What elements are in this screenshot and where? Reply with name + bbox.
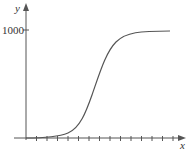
y-axis-label: y xyxy=(14,2,20,14)
y-axis: 1000 y xyxy=(2,2,29,140)
logistic-curve xyxy=(26,31,170,138)
chart: 1000 y x xyxy=(0,0,188,150)
y-axis-arrow-icon xyxy=(23,3,29,11)
x-axis-label: x xyxy=(179,139,185,150)
y-tick-label: 1000 xyxy=(2,24,25,36)
